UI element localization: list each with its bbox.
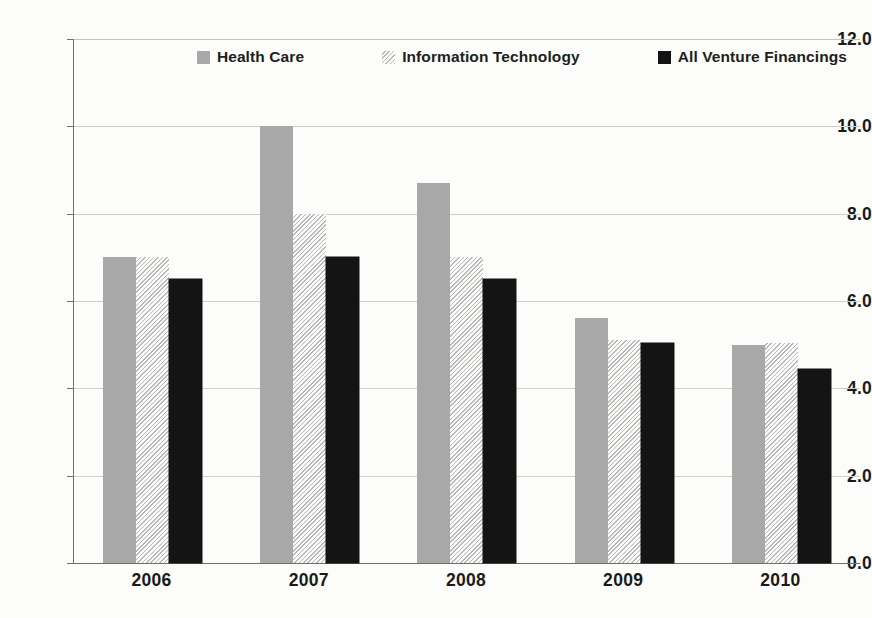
x-tick-label-2008: 2008 [446,570,486,591]
bar-all-venture-financings-2010[interactable] [798,369,831,563]
bar-health-care-2007[interactable] [260,126,293,563]
bar-group-2008 [388,39,545,563]
bar-group-2010 [703,39,860,563]
bar-information-technology-2006[interactable] [136,257,169,563]
bar-health-care-2008[interactable] [417,183,450,563]
x-tick-label-2007: 2007 [289,570,329,591]
bar-group-2007 [231,39,388,563]
bar-information-technology-2009[interactable] [608,340,641,563]
x-axis: 2006 2007 2008 2009 2010 [73,570,859,600]
bar-health-care-2010[interactable] [732,345,765,563]
bar-all-venture-financings-2009[interactable] [641,343,674,563]
bar-group-2006 [74,39,231,563]
x-tick-label-2010: 2010 [760,570,800,591]
bar-health-care-2009[interactable] [575,318,608,563]
plot-area [73,39,860,564]
bar-information-technology-2008[interactable] [450,257,483,563]
x-tick-label-2006: 2006 [132,570,172,591]
bars-layer [74,39,860,563]
bar-information-technology-2010[interactable] [765,343,798,563]
bar-all-venture-financings-2007[interactable] [326,257,359,563]
bar-all-venture-financings-2008[interactable] [483,279,516,563]
x-tick-label-2009: 2009 [603,570,643,591]
bar-information-technology-2007[interactable] [293,214,326,563]
bar-health-care-2006[interactable] [103,257,136,563]
chart-canvas: Health Care Information Technology All V… [0,0,872,618]
bar-group-2009 [546,39,703,563]
bar-all-venture-financings-2006[interactable] [169,279,202,563]
